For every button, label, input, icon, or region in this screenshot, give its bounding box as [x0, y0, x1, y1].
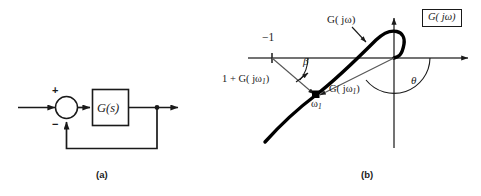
one-plus-g-arg-close: ) — [266, 73, 270, 84]
leader-curve-label — [352, 27, 366, 42]
frequency-point-subscript: 1 — [318, 102, 322, 111]
block-diagram-group — [18, 90, 178, 149]
figure-root: G(s) + − (a) G( jω) G( jω) −1 1 + G( jω1… — [0, 0, 481, 196]
curve-label-g: G — [327, 13, 335, 25]
plane-label-arg: ( jω) — [436, 11, 456, 22]
critical-point-label: −1 — [262, 32, 274, 44]
plane-label-box: G( jω) — [422, 9, 462, 27]
curve-label: G( jω) — [327, 14, 355, 25]
angle-beta-label: β — [303, 56, 308, 67]
g-jw1-vector-label: G( jω1) — [329, 84, 360, 95]
g-jw1-symbol: G — [329, 83, 337, 94]
panel-a-caption: (a) — [96, 170, 108, 180]
summing-minus-sign: − — [52, 119, 58, 130]
curve-label-arg: ( jω) — [335, 13, 355, 25]
one-plus-g-prefix: 1 + — [222, 73, 238, 84]
one-plus-g-label: 1 + G( jω1) — [222, 74, 269, 85]
frequency-point-label: ω1 — [311, 99, 322, 110]
one-plus-g-arg-open: ( jω — [246, 73, 262, 84]
plant-block-label: G(s) — [97, 101, 119, 116]
g-jw1-arg-open: ( jω — [337, 83, 353, 94]
frequency-point-marker — [312, 91, 320, 99]
plane-label-g: G — [428, 11, 436, 22]
one-plus-g-symbol: G — [238, 73, 246, 84]
angle-theta-label: θ — [411, 75, 416, 86]
frequency-point-omega: ω — [311, 98, 318, 109]
leader-one-plus-g — [296, 73, 308, 82]
summing-junction — [56, 97, 78, 119]
angle-theta-arc — [366, 58, 430, 93]
summing-plus-sign: + — [52, 85, 58, 96]
panel-a-graphics — [0, 0, 481, 196]
panel-b-caption: (b) — [361, 170, 373, 180]
g-jw1-arg-close: ) — [356, 83, 360, 94]
